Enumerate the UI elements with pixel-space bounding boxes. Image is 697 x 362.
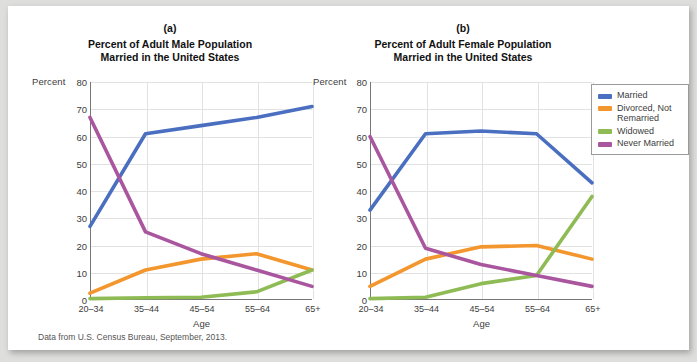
legend-label: Never Married — [617, 138, 674, 149]
chart-legend: MarriedDivorced, Not RemarriedWidowedNev… — [591, 84, 689, 155]
legend-swatch-icon — [598, 94, 612, 99]
x-axis-tick: 20–34 — [78, 304, 103, 314]
y-axis-tick: 40 — [76, 186, 87, 197]
source-note: Data from U.S. Census Bureau, September,… — [38, 332, 227, 342]
panel-b-letter: (b) — [313, 22, 613, 34]
y-axis-tick: 10 — [356, 267, 367, 278]
panel-a-title-line2: Married in the United States — [20, 51, 320, 64]
y-axis-tick: 80 — [76, 77, 87, 88]
x-axis-title: Age — [473, 318, 490, 329]
y-axis-tick: 30 — [76, 213, 87, 224]
legend-label: Married — [617, 90, 648, 101]
y-axis-tick: 60 — [356, 131, 367, 142]
legend-swatch-icon — [598, 142, 612, 147]
gridline-vertical — [538, 82, 539, 299]
x-axis-tick: 55–64 — [525, 304, 550, 314]
gridline-vertical — [482, 82, 483, 299]
gridline-vertical — [427, 82, 428, 299]
x-axis-tick: 20–34 — [358, 304, 383, 314]
y-axis-tick: 70 — [356, 104, 367, 115]
panel-a-title: Percent of Adult Male Population Married… — [20, 38, 320, 63]
legend-item: Never Married — [598, 138, 681, 149]
panel-a-letter: (a) — [20, 22, 320, 34]
panel-b-title-line1: Percent of Adult Female Population — [313, 38, 613, 51]
y-axis-tick: 70 — [76, 104, 87, 115]
y-axis-tick: 60 — [76, 131, 87, 142]
gridline-vertical — [147, 82, 148, 299]
y-axis-tick: 40 — [356, 186, 367, 197]
legend-label: Divorced, Not Remarried — [617, 103, 681, 124]
legend-swatch-icon — [598, 106, 612, 111]
y-axis-tick: 50 — [76, 158, 87, 169]
chart-panel-a: (a) Percent of Adult Male Population Mar… — [20, 14, 320, 314]
gridline-vertical — [258, 82, 259, 299]
legend-swatch-icon — [598, 129, 612, 134]
chart-panel-b: (b) Percent of Adult Female Population M… — [313, 14, 613, 314]
panel-b-title-line2: Married in the United States — [313, 51, 613, 64]
gridline-vertical — [202, 82, 203, 299]
figure-card: (a) Percent of Adult Male Population Mar… — [8, 6, 689, 350]
legend-item: Married — [598, 90, 681, 101]
x-axis-tick: 35–44 — [134, 304, 159, 314]
legend-item: Widowed — [598, 126, 681, 137]
x-axis-tick: 65+ — [585, 304, 600, 314]
y-axis-tick: 10 — [76, 267, 87, 278]
panel-b-title: Percent of Adult Female Population Marri… — [313, 38, 613, 63]
panel-a-title-line1: Percent of Adult Male Population — [20, 38, 320, 51]
y-axis-tick: 50 — [356, 158, 367, 169]
y-axis-tick: 80 — [356, 77, 367, 88]
panel-a-y-axis-label: Percent — [32, 76, 65, 87]
x-axis-tick: 35–44 — [414, 304, 439, 314]
x-axis-title: Age — [193, 318, 210, 329]
y-axis-tick: 20 — [76, 240, 87, 251]
y-axis-tick: 30 — [356, 213, 367, 224]
x-axis-tick: 45–54 — [469, 304, 494, 314]
panel-b-plot-area: 0102030405060708020–3435–4445–5455–6465+… — [370, 82, 592, 300]
legend-label: Widowed — [617, 126, 654, 137]
panel-a-plot-area: 0102030405060708020–3435–4445–5455–6465+… — [90, 82, 312, 300]
legend-item: Divorced, Not Remarried — [598, 103, 681, 124]
panel-b-y-axis-label: Percent — [313, 76, 346, 87]
x-axis-tick: 45–54 — [189, 304, 214, 314]
x-axis-tick: 55–64 — [245, 304, 270, 314]
y-axis-tick: 20 — [356, 240, 367, 251]
